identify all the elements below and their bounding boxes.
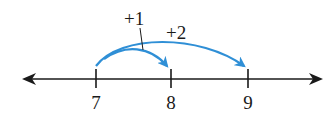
tick-label-8: 8: [166, 93, 176, 112]
jump-arc-plus-2: [96, 42, 244, 66]
jump-label-plus-1: +1: [124, 9, 144, 28]
jump-label-plus-2: +2: [166, 23, 186, 42]
tick-label-9: 9: [243, 93, 253, 112]
tick-label-7: 7: [91, 93, 101, 112]
label-leader-line: [140, 28, 143, 50]
number-line-diagram: +1 +2 7 8 9: [0, 0, 334, 121]
